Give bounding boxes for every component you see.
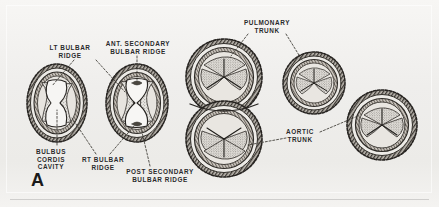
specimen-3-figure-eight: [186, 39, 262, 177]
label-lt-bulbar-ridge: LT BULBAR RIDGE: [44, 44, 96, 59]
label-post-secondary-bulbar-ridge: POST SECONDARY BULBAR RIDGE: [122, 168, 198, 183]
specimen-illustrations: [0, 0, 439, 207]
label-bulbus-cordis-cavity: BULBUS CORDIS CAVITY: [26, 148, 76, 171]
label-ant-secondary-bulbar-ridge: ANT. SECONDARY BULBAR RIDGE: [102, 40, 174, 55]
specimen-4-pulmonary-trunk: [283, 52, 345, 114]
specimen-1-bulbus-oval: [27, 64, 87, 142]
label-pulmonary-trunk: PULMONARY TRUNK: [238, 19, 296, 34]
label-aortic-trunk: AORTIC TRUNK: [278, 128, 322, 143]
bottom-rule: [10, 199, 429, 200]
panel-letter: A: [31, 171, 44, 189]
specimen-5-aortic-trunk: [347, 90, 417, 160]
anatomical-figure-plate: LT BULBAR RIDGE ANT. SECONDARY BULBAR RI…: [0, 0, 439, 207]
